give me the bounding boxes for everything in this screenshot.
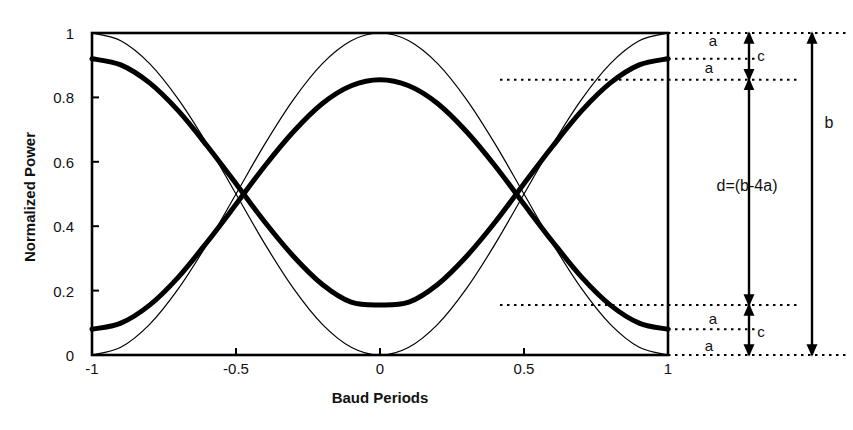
y-tick-label-0.2: 0.2: [53, 284, 74, 299]
annotation-d-middle: d=(b-4a): [717, 178, 778, 194]
x-tick-label-0.5: 0.5: [514, 361, 535, 376]
curve-degraded-eye-lower: [92, 59, 668, 305]
annotation-c-bottom: c: [757, 324, 765, 339]
curve-degraded-eye-upper: [92, 80, 668, 330]
annotation-a-top-2: a: [705, 60, 713, 75]
annotation-a-top-1: a: [709, 33, 717, 48]
x-tick-label--1: -1: [85, 361, 98, 376]
chart-canvas: [0, 0, 853, 430]
y-tick-label-0.8: 0.8: [53, 90, 74, 105]
annotation-a-bottom-2: a: [705, 338, 713, 353]
y-axis-title: Normalized Power: [22, 132, 37, 262]
annotation-b-total: b: [825, 115, 834, 131]
x-tick-label-1: 1: [664, 361, 672, 376]
x-axis-title: Baud Periods: [332, 390, 429, 405]
y-tick-label-0: 0: [66, 348, 74, 363]
x-tick-label-0: 0: [376, 361, 384, 376]
annotation-a-bottom-1: a: [709, 311, 717, 326]
y-tick-label-0.4: 0.4: [53, 219, 74, 234]
x-tick-label--0.5: -0.5: [223, 361, 249, 376]
y-tick-label-1: 1: [66, 26, 74, 41]
eye-diagram-figure: 1 0.8 0.6 0.4 0.2 0 -1 -0.5 0 0.5 1 Norm…: [0, 0, 853, 430]
y-tick-label-0.6: 0.6: [53, 155, 74, 170]
annotation-c-top: c: [757, 48, 765, 63]
